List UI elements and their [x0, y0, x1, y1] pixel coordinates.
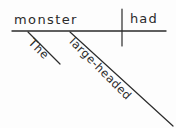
- subject-word: monster: [14, 13, 78, 26]
- sentence-diagram-canvas: monster had The large-headed: [0, 0, 176, 128]
- verb-word: had: [130, 12, 158, 25]
